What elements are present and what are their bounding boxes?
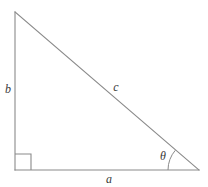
side-a-label: a	[106, 172, 112, 186]
triangle-canvas: b c a θ	[0, 0, 208, 187]
right-angle-marker-icon	[15, 154, 31, 170]
right-triangle-figure: b c a θ	[0, 0, 208, 187]
angle-arc-icon	[168, 150, 175, 170]
side-c-hypotenuse-line	[15, 12, 199, 170]
side-c-label: c	[113, 80, 119, 94]
side-b-label: b	[5, 82, 11, 96]
angle-theta-label: θ	[160, 149, 166, 163]
